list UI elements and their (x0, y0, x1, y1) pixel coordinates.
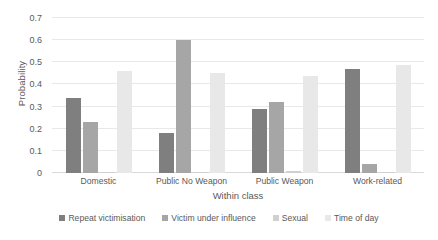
bar-group (52, 18, 145, 173)
bars (331, 18, 424, 173)
bar (379, 172, 394, 173)
legend-swatch-icon (273, 215, 279, 221)
legend-label: Sexual (282, 213, 308, 223)
bar (303, 76, 318, 173)
legend-item[interactable]: Sexual (273, 213, 308, 223)
bar-group (238, 18, 331, 173)
bar (193, 172, 208, 173)
legend-swatch-icon (162, 215, 168, 221)
y-tick-label: 0.5 (29, 57, 42, 67)
bar-group (145, 18, 238, 173)
bars (238, 18, 331, 173)
legend-label: Time of day (334, 213, 379, 223)
bar-groups (52, 18, 424, 173)
legend: Repeat victimisationVictim under influen… (0, 213, 438, 223)
y-tick-label: 0.1 (29, 146, 42, 156)
bar (100, 172, 115, 173)
bar (210, 73, 225, 173)
bar (83, 122, 98, 173)
x-tick-label: Public No Weapon (145, 176, 238, 186)
y-tick-label: 0.4 (29, 79, 42, 89)
y-tick-label: 0.7 (29, 13, 42, 23)
legend-swatch-icon (325, 215, 331, 221)
legend-item[interactable]: Victim under influence (162, 213, 255, 223)
y-tick-label: 0.3 (29, 102, 42, 112)
bar (269, 102, 284, 173)
bar (396, 65, 411, 174)
bar (117, 71, 132, 173)
y-tick-label: 0.2 (29, 124, 42, 134)
bar (286, 171, 301, 173)
bars (145, 18, 238, 173)
x-axis-ticks: DomesticPublic No WeaponPublic WeaponWor… (52, 176, 424, 186)
bar (345, 69, 360, 173)
plot-area (52, 18, 424, 173)
x-tick-label: Work-related (331, 176, 424, 186)
y-tick-label: 0 (37, 168, 42, 178)
legend-label: Victim under influence (171, 213, 255, 223)
bar (362, 164, 377, 173)
grouped-bar-chart: Probability 00.10.20.30.40.50.60.7 Domes… (0, 0, 438, 240)
bar (252, 109, 267, 173)
bar (176, 40, 191, 173)
y-tick-label: 0.6 (29, 35, 42, 45)
legend-item[interactable]: Repeat victimisation (59, 213, 145, 223)
legend-swatch-icon (59, 215, 65, 221)
bars (52, 18, 145, 173)
x-tick-label: Domestic (52, 176, 145, 186)
x-tick-label: Public Weapon (238, 176, 331, 186)
y-axis-ticks: 00.10.20.30.40.50.60.7 (0, 18, 48, 173)
legend-label: Repeat victimisation (68, 213, 145, 223)
x-axis-title: Within class (52, 190, 424, 201)
bar (159, 133, 174, 173)
bar-group (331, 18, 424, 173)
legend-item[interactable]: Time of day (325, 213, 379, 223)
bar (66, 98, 81, 173)
